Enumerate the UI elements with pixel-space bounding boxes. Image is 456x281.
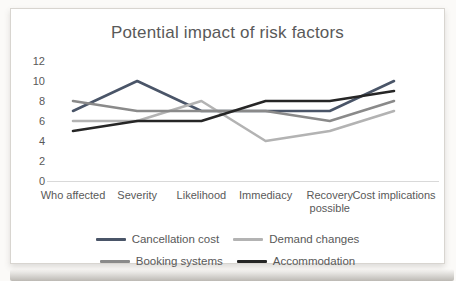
y-tick-10: 10: [19, 74, 45, 88]
x-label-cost-implications: Cost implications: [352, 189, 436, 202]
legend-swatch-accommodation: [237, 260, 267, 263]
series-line-cancellation-cost: [73, 81, 394, 111]
legend-label-cancellation-cost: Cancellation cost: [132, 233, 220, 245]
legend-swatch-cancellation-cost: [96, 238, 126, 241]
legend-item-cancellation-cost: Cancellation cost: [96, 233, 220, 245]
legend-item-accommodation: Accommodation: [237, 255, 355, 267]
y-tick-12: 12: [19, 54, 45, 68]
plot-area: [11, 9, 446, 265]
y-tick-2: 2: [19, 154, 45, 168]
legend-row-1: Cancellation costDemand changes: [11, 233, 444, 245]
y-tick-8: 8: [19, 94, 45, 108]
y-tick-6: 6: [19, 114, 45, 128]
legend-item-demand-changes: Demand changes: [233, 233, 359, 245]
photo-background: Potential impact of risk factors 1210864…: [0, 0, 456, 281]
legend-swatch-demand-changes: [233, 238, 263, 241]
y-tick-0: 0: [19, 174, 45, 188]
series-line-demand-changes: [73, 101, 394, 141]
photo-bottom-shadow: [10, 269, 454, 281]
legend-label-accommodation: Accommodation: [273, 255, 355, 267]
legend-swatch-booking-systems: [100, 260, 130, 263]
legend-label-demand-changes: Demand changes: [269, 233, 359, 245]
y-tick-4: 4: [19, 134, 45, 148]
legend-label-booking-systems: Booking systems: [136, 255, 223, 267]
legend-row-2: Booking systemsAccommodation: [11, 255, 444, 267]
legend-item-booking-systems: Booking systems: [100, 255, 223, 267]
chart-container: Potential impact of risk factors 1210864…: [10, 8, 445, 264]
